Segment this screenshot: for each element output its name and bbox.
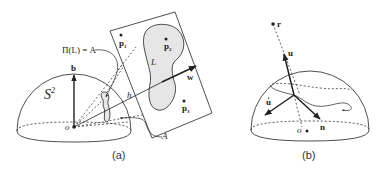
origin-dot-b <box>306 130 309 133</box>
b-label: b <box>71 63 76 73</box>
r-label: r <box>277 19 281 29</box>
sphere-label: S2 <box>44 86 55 102</box>
u-vector <box>284 54 294 95</box>
h-label: h <box>127 90 132 100</box>
L-label: L <box>150 57 156 67</box>
caption-a: (a) <box>112 149 125 161</box>
point-r <box>271 22 275 26</box>
w-label: w <box>187 72 194 82</box>
A-label: A <box>161 131 168 141</box>
pi-label: Π(L) = A <box>62 45 97 55</box>
trajectory-front <box>270 85 351 111</box>
origin-label-a: o <box>65 122 70 132</box>
figure: p1 p2 p3 L h w b Π(L) = A A o S2 (a) <box>0 0 380 173</box>
point-p1 <box>120 34 123 37</box>
udot-dot <box>268 97 269 98</box>
pi-leader <box>95 50 118 97</box>
trajectory-back <box>272 83 352 90</box>
caption-b: (b) <box>302 149 315 161</box>
projected-region-a <box>101 92 110 122</box>
u-label: u <box>288 48 293 58</box>
ray-to-origin <box>294 95 302 127</box>
n-vector <box>294 95 320 119</box>
origin-label-b: o <box>297 125 302 135</box>
origin-dot-a <box>72 125 76 129</box>
panel-a: p1 p2 p3 L h w b Π(L) = A A o S2 (a) <box>17 12 212 161</box>
n-label: n <box>320 122 325 132</box>
panel-b: r u u n o (b) <box>251 19 369 161</box>
